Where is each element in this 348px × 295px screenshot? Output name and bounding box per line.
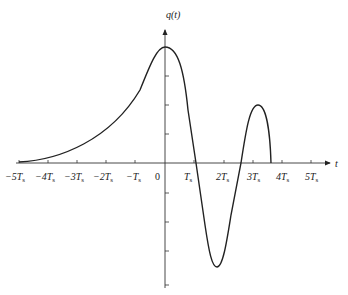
svg-text:−2Ts: −2Ts	[93, 171, 113, 184]
svg-text:−4Ts: −4Ts	[35, 171, 55, 184]
svg-text:−5Ts: −5Ts	[5, 171, 25, 184]
svg-text:−Ts: −Ts	[126, 171, 141, 184]
svg-text:−3Ts: −3Ts	[64, 171, 84, 184]
y-axis-label: q(t)	[166, 9, 181, 21]
pulse-waveform-diagram: q(t) t −5Ts −4Ts −3Ts −2Ts −Ts 0 Ts 2Ts …	[0, 0, 348, 295]
y-ticks	[165, 76, 169, 285]
svg-text:4Ts: 4Ts	[276, 171, 290, 184]
x-tick-labels: −5Ts −4Ts −3Ts −2Ts −Ts 0 Ts 2Ts 3Ts 4Ts…	[5, 171, 319, 184]
svg-text:2Ts: 2Ts	[216, 171, 230, 184]
svg-text:0: 0	[155, 171, 160, 182]
svg-text:5Ts: 5Ts	[305, 171, 319, 184]
waveform-curve	[19, 47, 271, 267]
svg-text:Ts: Ts	[184, 171, 193, 184]
svg-text:3Ts: 3Ts	[246, 171, 261, 184]
x-axis-label: t	[335, 158, 338, 169]
